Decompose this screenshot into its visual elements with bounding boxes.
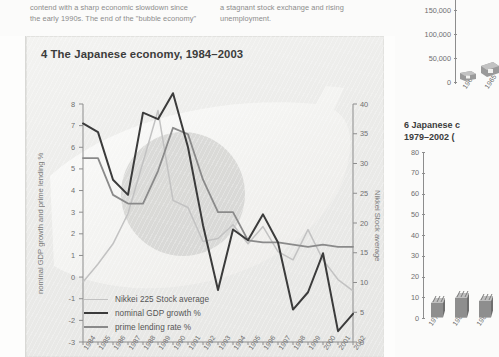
main-chart-y-axis-left-label: nominal GDP growth and prime lending % (34, 108, 46, 338)
y-tick-right: 35 (360, 129, 378, 138)
right-top-y-tick: 50,000 (395, 54, 451, 63)
main-chart-panel: 4 The Japanese economy, 1984–2003 nomina… (25, 36, 384, 357)
right-bottom-y-tick: 30 (395, 251, 419, 260)
legend-color-swatch (84, 326, 108, 328)
right-bottom-y-tick: 20 (395, 272, 419, 281)
y-tick-left: 5 (59, 164, 75, 173)
legend-label: Nikkei 225 Stock average (115, 295, 209, 304)
right-bottom-axis-line (423, 152, 424, 318)
y-tick-left: 7 (59, 121, 75, 130)
legend-label: nominal GDP growth % (115, 309, 201, 318)
right-bottom-tick-mark (422, 318, 425, 319)
y-tick-right: 30 (360, 159, 378, 168)
legend-label: prime lending rate % (115, 323, 191, 332)
legend-item[interactable]: nominal GDP growth % (84, 306, 209, 320)
y-tick-right: 20 (360, 219, 378, 228)
right-top-y-tick: 0 (395, 78, 451, 87)
main-chart-title: 4 The Japanese economy, 1984–2003 (41, 48, 243, 60)
y-tick-left: 8 (59, 100, 75, 109)
right-bottom-y-tick: 0 (395, 314, 419, 323)
series-line (83, 128, 353, 247)
money-bundle-bar-icon (429, 294, 446, 322)
right-bottom-y-tick: 50 (395, 210, 419, 219)
right-bottom-y-tick: 60 (395, 189, 419, 198)
cash-register-icon (458, 66, 478, 86)
right-top-y-tick: 100,000 (395, 30, 451, 39)
y-tick-right: 10 (360, 278, 378, 287)
body-line: contend with a sharp economic slowdown s… (30, 2, 215, 13)
money-bundle-bar-icon (453, 289, 470, 322)
body-line: the early 1990s. The end of the "bubble … (30, 13, 215, 24)
right-bottom-y-tick: 80 (395, 148, 419, 157)
money-bundle-bar-icon (477, 292, 494, 322)
y-tick-left: -2 (59, 316, 75, 325)
y-tick-left: 2 (59, 229, 75, 238)
y-tick-right: 25 (360, 189, 378, 198)
page-root: contend with a sharp economic slowdown s… (0, 0, 499, 357)
y-tick-right: 5 (360, 308, 378, 317)
y-tick-left: 1 (59, 251, 75, 260)
legend-color-swatch (84, 312, 108, 314)
cash-register-icon (479, 58, 499, 82)
right-bottom-y-tick: 10 (395, 293, 419, 302)
body-line: a stagnant stock exchange and rising (220, 2, 380, 13)
legend-item[interactable]: prime lending rate % (84, 320, 209, 334)
y-tick-right: 15 (360, 248, 378, 257)
legend-color-swatch (84, 299, 108, 300)
y-tick-left: -1 (59, 294, 75, 303)
body-line: unemployment. (220, 13, 380, 24)
legend-item[interactable]: Nikkei 225 Stock average (84, 292, 209, 306)
y-tick-left: 4 (59, 186, 75, 195)
right-bottom-chart-title: 6 Japanese c 1979–2002 ( (404, 120, 460, 143)
title-line-2: 1979–2002 ( (404, 132, 455, 142)
right-bottom-chart-partial: 6 Japanese c 1979–2002 ( 807060504030201… (395, 118, 499, 357)
y-tick-left: 6 (59, 143, 75, 152)
page-gutter (383, 36, 395, 357)
right-bottom-y-tick: 40 (395, 231, 419, 240)
right-top-chart-partial: 250,000200,000150,000100,00050,0000 1960… (395, 0, 499, 92)
y-tick-left: 0 (59, 273, 75, 282)
right-bottom-y-tick: 70 (395, 168, 419, 177)
right-top-y-tick: 150,000 (395, 6, 451, 15)
right-top-axis-line (455, 0, 456, 84)
y-tick-right: 40 (360, 100, 378, 109)
body-text-left-column: contend with a sharp economic slowdown s… (30, 2, 215, 24)
title-line-1: 6 Japanese c (404, 120, 460, 130)
page-left-margin (0, 36, 25, 357)
y-tick-left: -3 (59, 338, 75, 347)
y-tick-left: 3 (59, 208, 75, 217)
body-text-right-column: a stagnant stock exchange and rising une… (220, 2, 380, 24)
main-chart-legend: Nikkei 225 Stock averagenominal GDP grow… (84, 292, 209, 334)
